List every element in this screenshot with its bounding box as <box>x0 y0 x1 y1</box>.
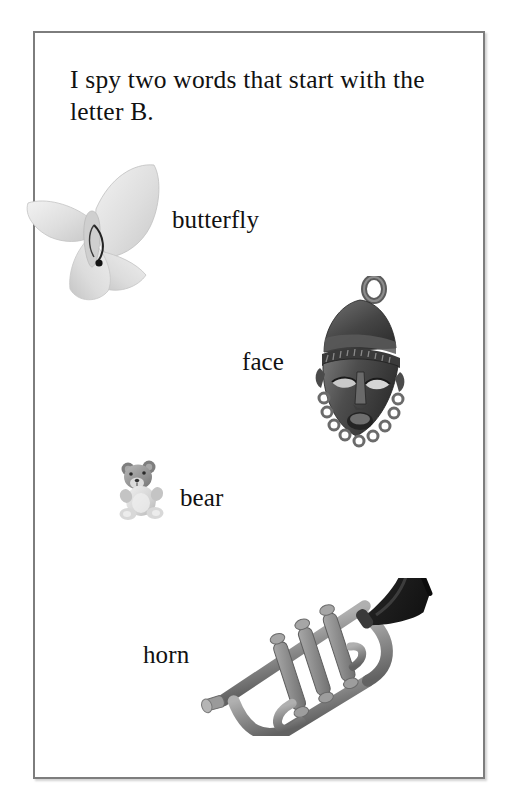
item-label-bear: bear <box>180 484 223 512</box>
mask-face-image <box>312 276 408 454</box>
item-label-butterfly: butterfly <box>172 206 259 234</box>
item-label-horn: horn <box>143 641 189 669</box>
item-label-face: face <box>242 348 284 376</box>
teddy-bear-image <box>118 458 168 522</box>
page-title: I spy two words that start with the lett… <box>70 64 440 128</box>
butterfly-image <box>22 163 170 305</box>
trumpet-image <box>182 578 448 736</box>
